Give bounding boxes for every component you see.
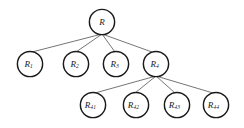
tree-edge-R4-to-R42: [135, 76, 156, 93]
tree-node-R43: R43: [164, 92, 189, 117]
tree-node-R: R: [89, 9, 114, 34]
node-subscript-R44: 44: [213, 104, 219, 110]
tree-edge-R4-to-R41: [95, 76, 156, 93]
node-group: RR1R2R3R4R41R42R43R44: [17, 9, 228, 117]
node-subscript-R2: 2: [76, 63, 79, 69]
tree-diagram: RR1R2R3R4R41R42R43R44: [0, 0, 244, 128]
tree-edge-R4-to-R44: [156, 76, 213, 93]
node-subscript-R43: 43: [174, 104, 180, 110]
tree-node-R42: R42: [123, 92, 148, 117]
tree-node-R1: R1: [17, 51, 42, 76]
node-label-R: R: [98, 17, 105, 27]
tree-edge-R-to-R2: [76, 34, 102, 52]
tree-node-R44: R44: [203, 92, 228, 117]
tree-node-R3: R3: [103, 51, 128, 76]
node-subscript-R42: 42: [133, 104, 139, 110]
node-subscript-R1: 1: [30, 63, 33, 69]
tree-node-R41: R41: [80, 92, 105, 117]
node-subscript-R4: 4: [156, 63, 159, 69]
node-subscript-R41: 41: [90, 104, 96, 110]
tree-node-R4: R4: [143, 51, 168, 76]
tree-node-R2: R2: [63, 51, 88, 76]
node-subscript-R3: 3: [115, 63, 119, 69]
tree-edge-R-to-R4: [102, 34, 152, 52]
tree-edge-R-to-R1: [32, 34, 102, 52]
